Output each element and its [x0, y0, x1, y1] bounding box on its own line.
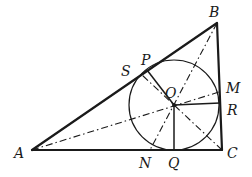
- label-R: R: [226, 102, 238, 118]
- label-P: P: [140, 52, 151, 68]
- label-S: S: [121, 63, 131, 79]
- bisector-AM: [32, 92, 219, 150]
- label-Q: Q: [168, 155, 180, 171]
- label-M: M: [225, 80, 241, 96]
- label-N: N: [138, 155, 152, 171]
- center-point-O: [172, 103, 176, 107]
- label-B: B: [208, 4, 219, 20]
- geometry-diagram: A B C O P S M R N Q: [0, 0, 252, 177]
- label-C: C: [227, 145, 238, 161]
- side-AB: [32, 23, 217, 150]
- side-BC: [217, 23, 222, 150]
- label-O: O: [165, 85, 177, 101]
- label-A: A: [12, 145, 24, 161]
